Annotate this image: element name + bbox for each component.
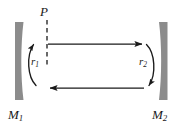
label-radius-r2: r2 [139, 56, 147, 68]
label-mirror-m1-subscript: 1 [19, 113, 23, 123]
mirror-left-shape [15, 22, 24, 100]
label-mirror-m1: M1 [8, 108, 23, 123]
label-radius-r1-subscript: 1 [35, 60, 39, 69]
radius-arc-right [147, 45, 154, 86]
label-reference-plane-p: P [40, 5, 48, 18]
label-radius-r2-subscript: 2 [143, 60, 147, 69]
label-mirror-m2-subscript: 2 [163, 113, 167, 123]
optical-cavity-figure: P M1 M2 r1 r2 [0, 0, 183, 127]
label-mirror-m2: M2 [152, 108, 167, 123]
label-radius-r1: r1 [31, 56, 39, 68]
mirror-right-shape [159, 22, 168, 100]
